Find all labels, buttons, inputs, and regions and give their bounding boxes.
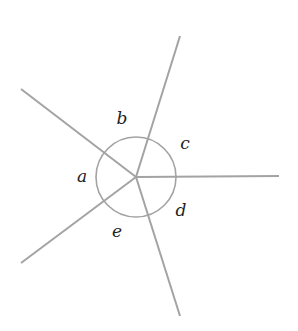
- angle-label-a: a: [77, 168, 87, 185]
- angle-label-c: c: [180, 135, 190, 152]
- ray-upper-left: [21, 89, 136, 177]
- ray-up: [136, 36, 180, 177]
- angle-label-e: e: [112, 223, 122, 240]
- ray-down: [136, 177, 180, 316]
- angle-label-b: b: [117, 110, 128, 127]
- angles-diagram: a b c d e: [0, 0, 298, 331]
- angle-label-d: d: [176, 202, 187, 219]
- diagram-drawing: [0, 0, 298, 331]
- ray-right: [136, 176, 279, 177]
